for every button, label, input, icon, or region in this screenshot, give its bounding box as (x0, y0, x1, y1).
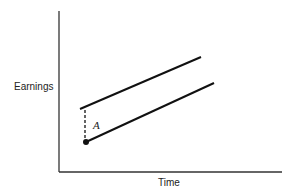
y-axis-label: Earnings (14, 81, 53, 92)
gap-label: A (93, 119, 100, 131)
upper-line (80, 57, 201, 109)
chart-canvas (0, 0, 297, 196)
start-point (83, 139, 89, 145)
lower-line (86, 83, 214, 142)
x-axis-label: Time (158, 177, 180, 188)
